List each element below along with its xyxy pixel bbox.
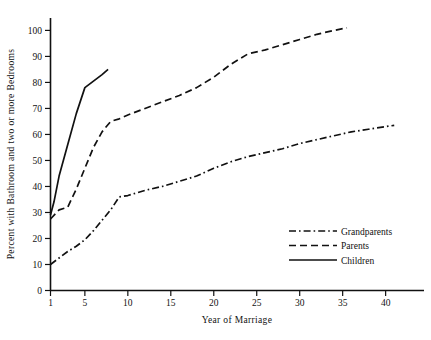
x-tick-label: 15 (166, 298, 176, 308)
legend-label-parents: Parents (341, 241, 369, 251)
x-tick-label: 1 (48, 298, 53, 308)
line-chart-canvas: 0102030405060708090100 1510152025303540 … (0, 0, 431, 340)
y-tick-label: 0 (37, 286, 42, 296)
chart-figure: 0102030405060708090100 1510152025303540 … (0, 0, 431, 340)
x-tick-label: 10 (123, 298, 133, 308)
x-tick-label: 30 (295, 298, 305, 308)
legend-label-grandparents: Grandparents (341, 227, 392, 237)
x-tick-label: 20 (209, 298, 219, 308)
y-tick-label: 10 (33, 260, 43, 270)
x-tick-label: 35 (338, 298, 348, 308)
y-tick-label: 40 (33, 182, 43, 192)
y-tick-label: 20 (33, 234, 43, 244)
y-tick-label: 90 (33, 52, 43, 62)
y-tick-label: 60 (33, 130, 43, 140)
y-tick-label: 30 (33, 208, 43, 218)
y-axis-title: Percent with Bathroom and two or more Be… (6, 49, 16, 260)
legend-label-children: Children (341, 256, 374, 266)
y-tick-label: 70 (33, 104, 43, 114)
y-tick-label: 100 (28, 26, 43, 36)
chart-background (0, 0, 431, 340)
y-tick-label: 80 (33, 78, 43, 88)
x-tick-label: 40 (381, 298, 391, 308)
x-tick-label: 25 (252, 298, 262, 308)
x-axis-title: Year of Marriage (202, 315, 273, 325)
y-tick-label: 50 (33, 156, 43, 166)
x-tick-label: 5 (82, 298, 87, 308)
